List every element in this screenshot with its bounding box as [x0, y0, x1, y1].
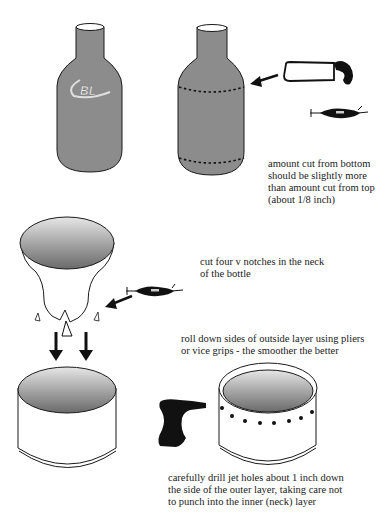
- notch-piece: [94, 312, 99, 321]
- arrow-down-icon: [79, 332, 93, 361]
- notch-piece: [62, 321, 72, 336]
- hacksaw-icon: [284, 61, 353, 84]
- cordless-drill-icon: [158, 399, 206, 447]
- arrow-left-icon: [105, 296, 132, 309]
- rotary-tool-icon: [126, 284, 183, 296]
- notch-piece: [35, 313, 40, 321]
- caption-roll-down: roll down sides of outside layer using p…: [181, 333, 364, 357]
- arrow-down-icon: [49, 332, 63, 361]
- caption-cut-amount: amount cut from bottom should be slightl…: [268, 158, 375, 206]
- caption-drill-holes: carefully drill jet holes about 1 inch d…: [168, 472, 344, 508]
- rotary-tool-icon: [310, 106, 368, 118]
- caption-v-notches: cut four v notches in the neck of the bo…: [200, 256, 324, 280]
- assembled-burner-drilled: [219, 363, 317, 465]
- arrow-left-icon: [250, 75, 278, 87]
- bottle-intact: BL: [57, 24, 122, 173]
- svg-text:BL: BL: [80, 84, 96, 98]
- assembled-burner-plain: [18, 367, 116, 468]
- bottle-marked-cuts: [178, 25, 244, 176]
- diagram-canvas: BL: [0, 0, 388, 532]
- bottle-neck-notched: [20, 217, 114, 336]
